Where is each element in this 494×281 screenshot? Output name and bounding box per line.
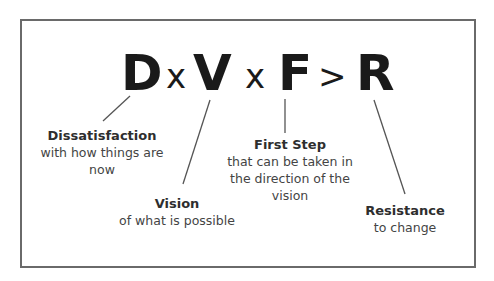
label-first-step: First Step that can be taken in the dire… bbox=[218, 136, 362, 204]
label-heading: First Step bbox=[254, 137, 326, 152]
label-heading: Vision bbox=[155, 196, 200, 211]
label-dissatisfaction: Dissatisfaction with how things are now bbox=[32, 127, 172, 178]
label-body: of what is possible bbox=[107, 212, 247, 229]
label-resistance: Resistance to change bbox=[355, 202, 455, 236]
connector-dissatisfaction bbox=[103, 96, 130, 121]
label-body: that can be taken in the direction of th… bbox=[218, 153, 362, 204]
connector-vision bbox=[183, 100, 210, 184]
label-body: to change bbox=[355, 219, 455, 236]
label-body: with how things are now bbox=[32, 144, 172, 178]
label-heading: Dissatisfaction bbox=[48, 128, 157, 143]
label-heading: Resistance bbox=[365, 203, 445, 218]
connector-resistance bbox=[374, 100, 405, 194]
